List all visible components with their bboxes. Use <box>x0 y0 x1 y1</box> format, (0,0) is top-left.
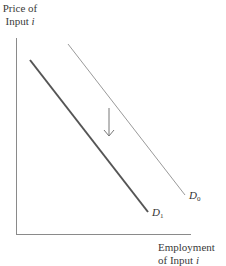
x-axis-label-line2: of Input i <box>158 254 226 266</box>
diagram-canvas <box>0 0 226 266</box>
demand-curve-d0 <box>68 44 185 195</box>
x-axis-label: Employment of Input i <box>158 241 226 266</box>
x-axis-label-line1: Employment <box>158 241 226 254</box>
shift-down-arrow-icon <box>104 108 114 136</box>
curve-label-d1: D1 <box>152 206 163 220</box>
demand-curve-d1 <box>30 60 148 212</box>
curve-label-d0: D0 <box>189 189 200 203</box>
